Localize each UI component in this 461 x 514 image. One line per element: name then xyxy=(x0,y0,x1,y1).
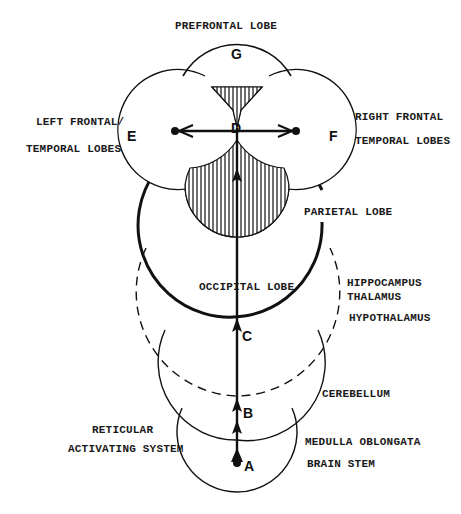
label-reticular-2: ACTIVATING SYSTEM xyxy=(68,443,184,455)
label-left-frontal-1: LEFT FRONTAL/ xyxy=(36,116,125,128)
label-cerebellum: CEREBELLUM xyxy=(322,388,390,400)
label-right-frontal-1: RIGHT FRONTAL xyxy=(355,111,444,123)
label-occipital: OCCIPITAL LOBE xyxy=(199,281,294,293)
label-left-frontal-2: TEMPORAL LOBES xyxy=(26,143,121,155)
label-right-frontal-2: TEMPORAL LOBES xyxy=(355,135,450,147)
label-medulla: MEDULLA OBLONGATA xyxy=(305,436,421,448)
point-f: F xyxy=(329,128,338,144)
point-g: G xyxy=(231,46,242,62)
label-reticular-1: RETICULAR xyxy=(92,424,153,436)
label-thalamus: THALAMUS xyxy=(347,291,402,303)
point-b: B xyxy=(243,405,253,421)
point-e: E xyxy=(127,128,136,144)
cerebellum-circle xyxy=(158,330,325,441)
label-hypothalamus: HYPOTHALAMUS xyxy=(349,312,431,324)
label-hippocampus: HIPPOCAMPUS xyxy=(347,277,422,289)
label-parietal: PARIETAL LOBE xyxy=(304,206,393,218)
point-d: D xyxy=(231,120,241,136)
point-a: A xyxy=(244,458,254,474)
point-c: C xyxy=(242,328,252,344)
label-prefrontal: PREFRONTAL LOBE xyxy=(175,20,277,32)
label-brain-stem: BRAIN STEM xyxy=(307,458,375,470)
brain-diagram: G D E F C B A PREFRONTAL LOBE LEFT FRONT… xyxy=(0,0,461,514)
